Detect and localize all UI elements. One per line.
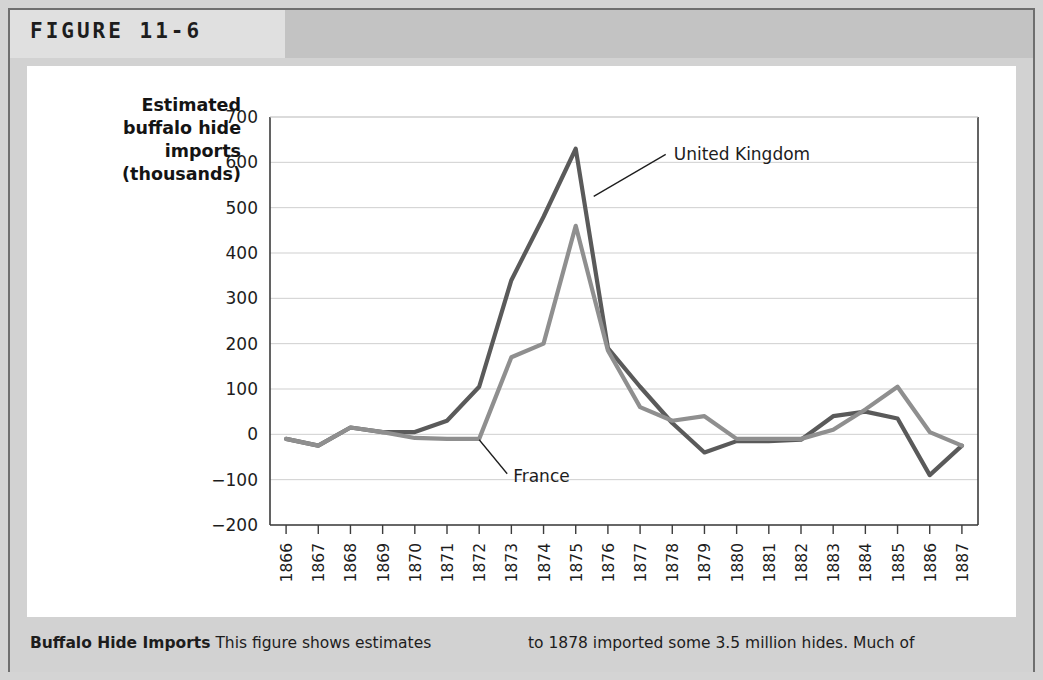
svg-text:1879: 1879 [696, 543, 714, 582]
svg-text:1872: 1872 [471, 543, 489, 582]
figure-frame: FIGURE 11-6 Estimated buffalo hide impor… [0, 0, 1043, 680]
svg-text:1880: 1880 [729, 543, 747, 582]
svg-text:1878: 1878 [664, 543, 682, 582]
svg-text:500: 500 [226, 198, 258, 218]
svg-text:300: 300 [226, 288, 258, 308]
svg-text:1873: 1873 [503, 543, 521, 582]
svg-text:700: 700 [226, 107, 258, 127]
figure-caption-area: Buffalo Hide Imports This figure shows e… [10, 625, 1033, 672]
caption-left-column: Buffalo Hide Imports This figure shows e… [30, 633, 500, 653]
svg-text:1887: 1887 [954, 543, 972, 582]
svg-text:1884: 1884 [857, 543, 875, 582]
line-chart: 7006005004003002001000−100−200 186618671… [27, 66, 1016, 617]
svg-text:1875: 1875 [568, 543, 586, 582]
svg-text:400: 400 [226, 243, 258, 263]
svg-text:France: France [513, 466, 570, 486]
svg-text:1876: 1876 [600, 543, 618, 582]
x-axis-tick-marks [286, 525, 962, 534]
svg-text:1877: 1877 [632, 543, 650, 582]
svg-text:1870: 1870 [407, 543, 425, 582]
svg-text:1885: 1885 [890, 543, 908, 582]
svg-text:1869: 1869 [375, 543, 393, 582]
svg-text:1867: 1867 [310, 543, 328, 582]
svg-text:1868: 1868 [342, 543, 360, 582]
chart-panel: Estimated buffalo hide imports (thousand… [27, 66, 1016, 617]
caption-bold-lead: Buffalo Hide Imports [30, 634, 210, 652]
svg-text:United Kingdom: United Kingdom [674, 144, 810, 164]
y-axis-tick-labels: 7006005004003002001000−100−200 [211, 107, 258, 535]
svg-text:100: 100 [226, 379, 258, 399]
svg-text:200: 200 [226, 334, 258, 354]
figure-caption: Buffalo Hide Imports This figure shows e… [30, 633, 1030, 653]
caption-right-column: to 1878 imported some 3.5 million hides.… [528, 633, 998, 653]
svg-text:1883: 1883 [825, 543, 843, 582]
svg-text:1886: 1886 [922, 543, 940, 582]
data-series [286, 149, 962, 475]
svg-text:−200: −200 [211, 515, 258, 535]
svg-text:−100: −100 [211, 470, 258, 490]
svg-text:600: 600 [226, 152, 258, 172]
svg-text:1882: 1882 [793, 543, 811, 582]
caption-left-text: This figure shows estimates [215, 634, 431, 652]
figure-number-label: FIGURE 11-6 [30, 19, 202, 43]
x-axis-tick-labels: 1866186718681869187018711872187318741875… [278, 543, 972, 582]
svg-text:0: 0 [247, 424, 258, 444]
svg-text:1881: 1881 [761, 543, 779, 582]
svg-text:1871: 1871 [439, 543, 457, 582]
svg-text:1874: 1874 [536, 543, 554, 582]
svg-text:1866: 1866 [278, 543, 296, 582]
